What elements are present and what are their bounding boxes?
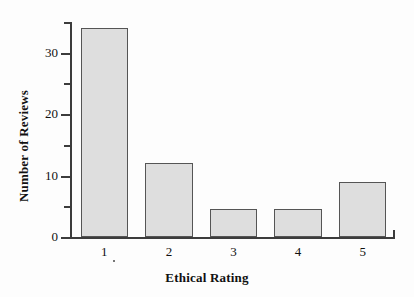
y-tick-label: 30 bbox=[45, 45, 58, 61]
x-tick-label: 1 bbox=[101, 244, 108, 260]
y-tick-mark bbox=[61, 114, 70, 116]
plot-area: 0102030 12345 bbox=[70, 22, 395, 238]
x-axis-line bbox=[70, 237, 395, 239]
bar-chart: Number of Reviews 0102030 12345 Ethical … bbox=[0, 0, 414, 297]
x-tick-label: 2 bbox=[166, 244, 173, 260]
y-tick-mark bbox=[64, 83, 70, 85]
y-tick-mark bbox=[61, 237, 70, 239]
x-tick-label: 5 bbox=[359, 244, 366, 260]
x-tick-label: 3 bbox=[230, 244, 237, 260]
y-tick-mark bbox=[61, 176, 70, 178]
y-tick-label: 10 bbox=[45, 168, 58, 184]
y-tick-label: 20 bbox=[45, 106, 58, 122]
bar bbox=[274, 209, 321, 237]
y-tick-mark bbox=[64, 206, 70, 208]
bar bbox=[81, 28, 128, 237]
bar bbox=[145, 163, 192, 237]
y-axis-title: Number of Reviews bbox=[16, 66, 32, 226]
y-tick-mark bbox=[64, 145, 70, 147]
y-tick-mark bbox=[64, 22, 70, 24]
bar-series bbox=[72, 22, 395, 237]
x-label-artifact-dot bbox=[113, 260, 115, 262]
x-tick-label: 4 bbox=[295, 244, 302, 260]
x-axis-title: Ethical Rating bbox=[0, 270, 414, 286]
bar bbox=[210, 209, 257, 237]
y-tick-mark bbox=[61, 53, 70, 55]
y-tick-label: 0 bbox=[52, 229, 59, 245]
bar bbox=[339, 182, 386, 237]
